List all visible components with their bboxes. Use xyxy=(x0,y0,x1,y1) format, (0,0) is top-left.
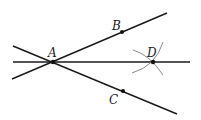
label-D: D xyxy=(146,46,157,60)
point-A xyxy=(51,60,55,64)
label-B: B xyxy=(111,19,121,33)
bisector-diagram: A B C D xyxy=(0,0,201,120)
label-A: A xyxy=(47,46,57,60)
ray-AB xyxy=(12,13,167,79)
label-C: C xyxy=(109,93,118,107)
point-C xyxy=(121,89,125,93)
point-D xyxy=(151,60,155,64)
